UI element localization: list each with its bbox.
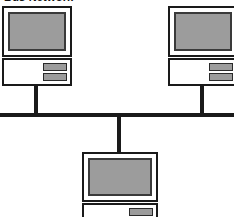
monitor	[82, 152, 158, 202]
monitor-screen	[8, 12, 66, 51]
drop-line-bottom-center	[117, 117, 121, 153]
drive-bay-stack	[43, 63, 67, 81]
drop-line-top-right	[200, 86, 204, 115]
bus-network-diagram: Bus Network	[0, 0, 234, 217]
diagram-title: Bus Network	[4, 0, 73, 3]
drive-bay-icon	[209, 73, 233, 81]
system-unit	[168, 58, 234, 86]
network-bus-line	[0, 113, 234, 117]
monitor	[168, 6, 234, 57]
drive-bay-icon	[43, 63, 67, 71]
monitor	[2, 6, 72, 57]
drive-bay-icon	[43, 73, 67, 81]
computer-top-left	[2, 6, 72, 86]
system-unit	[2, 58, 72, 86]
drive-bay-icon	[129, 208, 153, 216]
drive-bay-stack	[129, 208, 153, 217]
monitor-screen	[174, 12, 232, 51]
drive-bay-stack	[209, 63, 233, 81]
computer-top-right	[168, 6, 234, 86]
computer-bottom-center	[82, 152, 158, 217]
drop-line-top-left	[34, 86, 38, 115]
system-unit	[82, 203, 158, 217]
monitor-screen	[88, 158, 152, 196]
drive-bay-icon	[209, 63, 233, 71]
